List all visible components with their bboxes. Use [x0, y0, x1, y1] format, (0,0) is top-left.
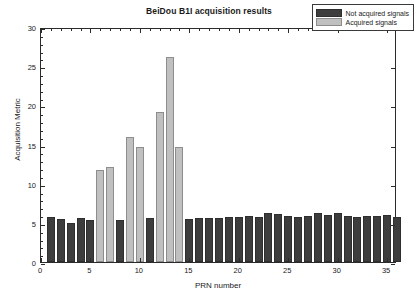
y-minor-tick	[41, 209, 43, 210]
bar-prn-21	[245, 216, 253, 262]
bar-prn-5	[86, 220, 94, 262]
bar-prn-26	[294, 217, 302, 262]
x-tick-mark	[140, 258, 141, 262]
figure: BeiDou B1I acquisition results 051015202…	[0, 0, 418, 301]
x-tick-label-20: 20	[234, 266, 242, 275]
legend-item-not-acquired: Not acquired signals	[316, 9, 409, 17]
x-minor-tick	[110, 29, 111, 31]
x-tick-mark	[189, 258, 190, 262]
bar-prn-20	[235, 217, 243, 262]
x-tick-label-0: 0	[38, 266, 42, 275]
x-minor-tick	[298, 29, 299, 31]
x-minor-tick	[61, 29, 62, 31]
bar-series-container	[41, 29, 395, 262]
x-axis-title: PRN number	[40, 281, 396, 290]
y-tick-mark	[41, 225, 45, 226]
y-minor-tick	[41, 92, 43, 93]
legend-item-acquired: Acquired signals	[316, 18, 409, 26]
y-tick-mark-right	[391, 264, 395, 265]
bar-prn-35	[383, 215, 391, 262]
y-minor-tick	[41, 100, 43, 101]
y-minor-tick	[41, 248, 43, 249]
x-minor-tick	[71, 29, 72, 31]
bar-prn-23	[264, 213, 272, 262]
bar-prn-28	[314, 213, 322, 262]
bar-prn-1	[47, 217, 55, 262]
legend-swatch-not-acquired-icon	[316, 9, 342, 17]
y-axis-title: Acquisition Metric	[13, 65, 22, 195]
x-minor-tick	[249, 29, 250, 31]
y-minor-tick	[41, 233, 43, 234]
y-tick-mark-right	[391, 225, 395, 226]
y-tick-label-0: 0	[2, 259, 36, 268]
bar-prn-30	[334, 213, 342, 262]
bar-prn-34	[373, 216, 381, 262]
y-minor-tick	[41, 84, 43, 85]
y-tick-mark-right	[391, 107, 395, 108]
x-tick-mark	[90, 258, 91, 262]
bar-prn-33	[363, 216, 371, 262]
x-tick-mark	[387, 258, 388, 262]
bar-prn-9	[126, 137, 134, 262]
x-tick-mark-top	[239, 29, 240, 33]
bar-prn-3	[67, 223, 75, 262]
y-tick-mark	[41, 264, 45, 265]
bar-prn-12	[156, 112, 164, 262]
x-minor-tick	[199, 29, 200, 31]
bar-prn-11	[146, 218, 154, 262]
y-minor-tick	[41, 45, 43, 46]
y-tick-mark	[41, 147, 45, 148]
x-minor-tick	[229, 29, 230, 31]
y-tick-mark	[41, 68, 45, 69]
y-tick-mark-right	[391, 186, 395, 187]
x-minor-tick	[209, 29, 210, 31]
bar-prn-32	[353, 217, 361, 262]
y-minor-tick	[41, 162, 43, 163]
x-minor-tick	[130, 29, 131, 31]
x-minor-tick	[160, 29, 161, 31]
legend-swatch-acquired-icon	[316, 18, 342, 26]
bar-prn-16	[195, 218, 203, 262]
x-minor-tick	[150, 29, 151, 31]
x-minor-tick	[278, 29, 279, 31]
bar-prn-13	[166, 57, 174, 262]
y-minor-tick	[41, 131, 43, 132]
x-minor-tick	[219, 29, 220, 31]
y-minor-tick	[41, 154, 43, 155]
bar-prn-18	[215, 218, 223, 262]
x-tick-mark-top	[189, 29, 190, 33]
x-tick-mark-top	[41, 29, 42, 33]
y-tick-mark-right	[391, 147, 395, 148]
bar-prn-22	[255, 217, 263, 262]
y-minor-tick	[41, 53, 43, 54]
x-tick-label-10: 10	[135, 266, 143, 275]
x-tick-label-5: 5	[87, 266, 91, 275]
bar-prn-14	[175, 147, 183, 262]
bar-prn-2	[57, 219, 65, 262]
x-minor-tick	[170, 29, 171, 31]
x-axis-tick-labels: 05101520253035	[40, 266, 396, 278]
x-tick-mark	[41, 258, 42, 262]
y-minor-tick	[41, 194, 43, 195]
y-tick-mark	[41, 107, 45, 108]
legend: Not acquired signals Acquired signals	[312, 4, 414, 31]
x-tick-label-30: 30	[332, 266, 340, 275]
x-tick-mark	[239, 258, 240, 262]
y-minor-tick	[41, 60, 43, 61]
bar-prn-25	[284, 216, 292, 262]
x-tick-mark	[338, 258, 339, 262]
y-minor-tick	[41, 241, 43, 242]
y-minor-tick	[41, 115, 43, 116]
legend-label-acquired: Acquired signals	[346, 19, 397, 26]
y-minor-tick	[41, 256, 43, 257]
y-minor-tick	[41, 139, 43, 140]
x-minor-tick	[100, 29, 101, 31]
x-tick-mark-top	[140, 29, 141, 33]
x-tick-label-15: 15	[184, 266, 192, 275]
x-minor-tick	[120, 29, 121, 31]
bar-prn-27	[304, 216, 312, 262]
x-minor-tick	[259, 29, 260, 31]
x-minor-tick	[179, 29, 180, 31]
x-minor-tick	[308, 29, 309, 31]
y-tick-mark	[41, 186, 45, 187]
